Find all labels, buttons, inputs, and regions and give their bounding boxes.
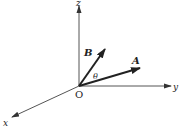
- x-axis: [12, 86, 79, 117]
- angle-theta-label: θ: [93, 72, 98, 81]
- y-axis-label: y: [172, 82, 179, 92]
- origin-label: O: [75, 89, 83, 100]
- vector-diagram: z y x O B A θ: [0, 0, 181, 135]
- vector-a-arrow: [79, 68, 140, 86]
- z-axis-label: z: [75, 0, 81, 8]
- x-axis-label: x: [3, 118, 8, 128]
- vector-b-label: B: [83, 47, 92, 58]
- vector-a-label: A: [131, 55, 140, 66]
